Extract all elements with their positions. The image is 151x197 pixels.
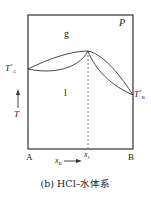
xb-label: xB bbox=[55, 157, 62, 165]
tb-sup: * bbox=[139, 89, 142, 94]
x1-sub: 1 bbox=[88, 155, 91, 160]
tb-star-label: T*B bbox=[134, 90, 145, 99]
diagram-frame bbox=[28, 15, 133, 149]
liquid-region-label: l bbox=[64, 88, 67, 98]
arrow-head-up-icon bbox=[16, 89, 20, 95]
gas-region-label: g bbox=[64, 29, 69, 39]
x1-label: x1 bbox=[84, 151, 90, 159]
component-b-label: B bbox=[128, 153, 134, 162]
phase-diagram-canvas bbox=[0, 0, 151, 197]
arrow-head-right-icon bbox=[76, 159, 82, 163]
ta-star-label: T*A bbox=[5, 64, 16, 73]
xb-sub: B bbox=[59, 161, 62, 166]
component-a-label: A bbox=[26, 153, 33, 162]
tb-sub: B bbox=[142, 95, 145, 100]
ta-sub: A bbox=[13, 69, 17, 74]
ta-sup: * bbox=[10, 63, 13, 68]
vapor-curve bbox=[28, 51, 133, 95]
temperature-axis-label: T bbox=[14, 110, 19, 119]
figure-caption: (b) HCl–水体系 bbox=[0, 176, 151, 190]
pressure-label: P bbox=[119, 18, 125, 28]
